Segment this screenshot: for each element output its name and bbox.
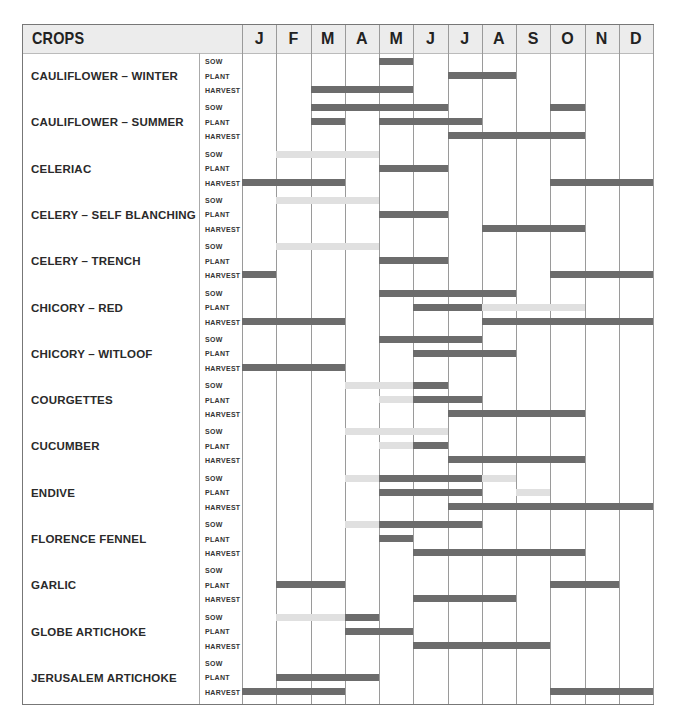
stage-label-sow: SOW: [205, 475, 223, 482]
harvest-period-bar: [311, 86, 414, 93]
crop-name: CAULIFLOWER – SUMMER: [31, 116, 184, 128]
stage-label-plant: PLANT: [205, 165, 230, 172]
crop-name: CAULIFLOWER – WINTER: [31, 70, 178, 82]
stage-label-harvest: HARVEST: [205, 596, 240, 603]
harvest-period-bar: [242, 271, 276, 278]
crop-row: FLORENCE FENNELSOWPLANTHARVEST: [23, 517, 653, 563]
month-header: A: [482, 25, 516, 53]
stage-label-sow: SOW: [205, 382, 223, 389]
harvest-period-bar: [413, 642, 550, 649]
plant-period-bar: [413, 350, 516, 357]
harvest-period-bar: [448, 503, 654, 510]
stage-label-plant: PLANT: [205, 536, 230, 543]
month-gridline: [653, 25, 654, 704]
month-header: O: [550, 25, 584, 53]
crop-name: GARLIC: [31, 579, 76, 591]
harvest-period-bar: [413, 595, 516, 602]
sow-period-bar: [379, 58, 413, 65]
month-header: M: [311, 25, 345, 53]
month-header: J: [448, 25, 482, 53]
crop-name: CELERIAC: [31, 163, 91, 175]
crop-row: ENDIVESOWPLANTHARVEST: [23, 471, 653, 517]
plant-period-bar: [276, 674, 379, 681]
stage-label-plant: PLANT: [205, 73, 230, 80]
stage-label-sow: SOW: [205, 428, 223, 435]
sow-period-bar: [550, 104, 584, 111]
stage-label-plant: PLANT: [205, 119, 230, 126]
crop-row: CHICORY – REDSOWPLANTHARVEST: [23, 286, 653, 332]
plant-period-bar: [311, 118, 345, 125]
stage-label-plant: PLANT: [205, 350, 230, 357]
plant-period-bar: [448, 72, 517, 79]
crop-name: CELERY – TRENCH: [31, 255, 141, 267]
stage-label-plant: PLANT: [205, 211, 230, 218]
crop-row: CAULIFLOWER – WINTERSOWPLANTHARVEST: [23, 54, 653, 100]
plant-period-bar: [379, 442, 413, 449]
sow-period-bar: [482, 475, 516, 482]
crops-column-title: CROPS: [32, 29, 84, 49]
month-header: F: [276, 25, 310, 53]
harvest-period-bar: [448, 410, 585, 417]
crop-row: CELERY – TRENCHSOWPLANTHARVEST: [23, 239, 653, 285]
crop-name: CHICORY – RED: [31, 302, 123, 314]
harvest-period-bar: [448, 456, 585, 463]
stage-label-sow: SOW: [205, 58, 223, 65]
stage-label-harvest: HARVEST: [205, 689, 240, 696]
plant-period-bar: [379, 165, 448, 172]
stage-label-sow: SOW: [205, 336, 223, 343]
plant-period-bar: [379, 396, 413, 403]
harvest-period-bar: [482, 225, 585, 232]
month-header: J: [413, 25, 447, 53]
sow-period-bar: [276, 151, 379, 158]
plant-period-bar: [516, 489, 550, 496]
crop-name: CUCUMBER: [31, 440, 100, 452]
crop-row: CAULIFLOWER – SUMMERSOWPLANTHARVEST: [23, 100, 653, 146]
harvest-period-bar: [448, 132, 585, 139]
month-header: D: [619, 25, 653, 53]
stage-label-plant: PLANT: [205, 443, 230, 450]
sow-period-bar: [311, 104, 448, 111]
stage-label-harvest: HARVEST: [205, 226, 240, 233]
harvest-period-bar: [242, 688, 345, 695]
sow-period-bar: [276, 197, 379, 204]
sow-period-bar: [379, 290, 516, 297]
plant-period-bar: [482, 304, 585, 311]
plant-period-bar: [276, 581, 345, 588]
plant-period-bar: [379, 211, 448, 218]
sow-period-bar: [276, 243, 379, 250]
stage-label-sow: SOW: [205, 614, 223, 621]
stage-label-harvest: HARVEST: [205, 411, 240, 418]
crop-calendar-chart: CROPS JFMAMJJASOND CAULIFLOWER – WINTERS…: [22, 24, 654, 705]
harvest-period-bar: [482, 318, 653, 325]
crop-name: COURGETTES: [31, 394, 113, 406]
plant-period-bar: [413, 396, 482, 403]
stage-label-sow: SOW: [205, 567, 223, 574]
crop-row: JERUSALEM ARTICHOKESOWPLANTHARVEST: [23, 656, 653, 702]
stage-label-harvest: HARVEST: [205, 87, 240, 94]
stage-label-harvest: HARVEST: [205, 180, 240, 187]
stage-label-harvest: HARVEST: [205, 504, 240, 511]
crop-name: JERUSALEM ARTICHOKE: [31, 672, 177, 684]
stage-label-plant: PLANT: [205, 489, 230, 496]
crop-row: CELERY – SELF BLANCHINGSOWPLANTHARVEST: [23, 193, 653, 239]
stage-label-sow: SOW: [205, 521, 223, 528]
harvest-period-bar: [550, 179, 653, 186]
sow-period-bar: [345, 382, 414, 389]
month-header: A: [345, 25, 379, 53]
crop-name: CELERY – SELF BLANCHING: [31, 209, 196, 221]
crop-name: FLORENCE FENNEL: [31, 533, 146, 545]
sow-period-bar: [413, 382, 447, 389]
plant-period-bar: [413, 304, 482, 311]
harvest-period-bar: [550, 688, 653, 695]
sow-period-bar: [345, 521, 379, 528]
stage-label-harvest: HARVEST: [205, 457, 240, 464]
plant-period-bar: [379, 489, 482, 496]
stage-label-sow: SOW: [205, 243, 223, 250]
sow-period-bar: [345, 475, 379, 482]
month-header: S: [516, 25, 550, 53]
harvest-period-bar: [550, 271, 653, 278]
sow-period-bar: [345, 428, 448, 435]
month-header: J: [242, 25, 276, 53]
crop-row: GARLICSOWPLANTHARVEST: [23, 563, 653, 609]
sow-period-bar: [276, 614, 345, 621]
